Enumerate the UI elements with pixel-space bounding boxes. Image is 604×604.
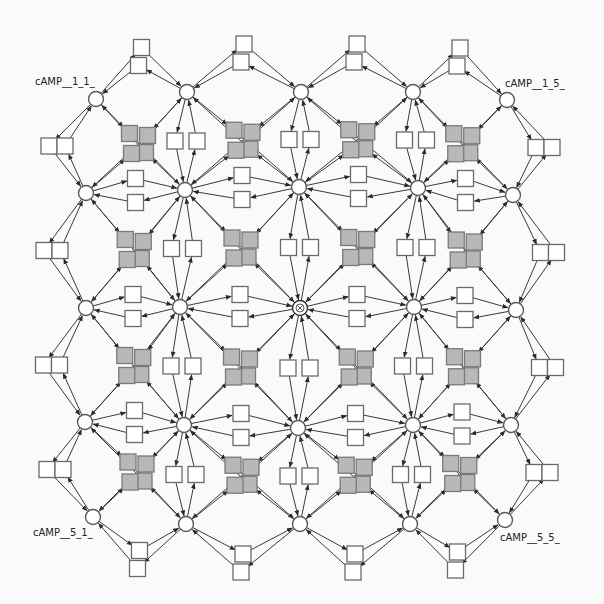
reaction-node-gray[interactable] (224, 230, 240, 246)
reaction-node[interactable] (448, 562, 464, 578)
reaction-node-gray[interactable] (464, 128, 480, 144)
reaction-node[interactable] (232, 311, 248, 327)
reaction-node-gray[interactable] (119, 252, 135, 268)
species-node-n_4_3[interactable] (291, 421, 306, 436)
reaction-node-gray[interactable] (135, 350, 151, 366)
reaction-node-gray[interactable] (243, 459, 259, 475)
reaction-node[interactable] (52, 357, 68, 373)
species-node-n_5_4[interactable] (403, 517, 418, 532)
reaction-node[interactable] (351, 167, 367, 183)
reaction-node[interactable] (125, 287, 141, 303)
species-node-n_3_4[interactable] (407, 300, 422, 315)
reaction-node[interactable] (166, 467, 182, 483)
reaction-node[interactable] (55, 462, 71, 478)
reaction-node[interactable] (233, 564, 249, 580)
reaction-node[interactable] (349, 311, 365, 327)
species-node-n_2_4[interactable] (411, 181, 426, 196)
reaction-node[interactable] (280, 360, 296, 376)
species-node-n_5_3[interactable] (293, 517, 308, 532)
reaction-node[interactable] (526, 465, 542, 481)
species-node-n_2_3[interactable] (292, 180, 307, 195)
reaction-node-gray[interactable] (120, 454, 136, 470)
reaction-node-gray[interactable] (341, 369, 357, 385)
reaction-node-gray[interactable] (465, 351, 481, 367)
reaction-node-gray[interactable] (135, 234, 151, 250)
reaction-node-gray[interactable] (357, 351, 373, 367)
species-node-n_4_1[interactable] (78, 415, 93, 430)
reaction-network-canvas[interactable]: cAMP__1_1_cAMP__1_5_cAMP__5_1_cAMP__5_5_ (0, 0, 604, 604)
species-node-n_4_4[interactable] (406, 418, 421, 433)
reaction-node-gray[interactable] (448, 146, 464, 162)
reaction-node-gray[interactable] (122, 474, 138, 490)
reaction-node-gray[interactable] (343, 250, 359, 266)
species-node-n_5_1[interactable] (86, 510, 101, 525)
reaction-node[interactable] (393, 467, 409, 483)
reaction-node-gray[interactable] (124, 146, 140, 162)
reaction-node[interactable] (236, 36, 252, 52)
reaction-node-gray[interactable] (244, 124, 260, 140)
reaction-node[interactable] (548, 360, 564, 376)
reaction-node[interactable] (281, 132, 297, 148)
species-node-n_4_5[interactable] (504, 418, 519, 433)
reaction-node[interactable] (302, 468, 318, 484)
reaction-node[interactable] (233, 54, 249, 70)
reaction-node[interactable] (127, 427, 143, 443)
reaction-node[interactable] (458, 171, 474, 187)
reaction-node[interactable] (454, 404, 470, 420)
reaction-node[interactable] (528, 140, 544, 156)
reaction-node[interactable] (419, 240, 435, 256)
reaction-node[interactable] (167, 133, 183, 149)
reaction-node[interactable] (235, 546, 251, 562)
reaction-node-gray[interactable] (449, 369, 465, 385)
reaction-node[interactable] (234, 192, 250, 208)
species-node-n_1_3[interactable] (294, 85, 309, 100)
reaction-node[interactable] (415, 467, 431, 483)
reaction-node-gray[interactable] (242, 232, 258, 248)
reaction-node-gray[interactable] (446, 126, 462, 142)
species-node-n_1_1[interactable] (89, 92, 104, 107)
species-node-n_2_2[interactable] (178, 183, 193, 198)
reaction-node[interactable] (457, 288, 473, 304)
reaction-node[interactable] (132, 543, 148, 559)
reaction-node-gray[interactable] (447, 349, 463, 365)
reaction-node[interactable] (131, 58, 147, 74)
reaction-node[interactable] (233, 430, 249, 446)
reaction-node-gray[interactable] (341, 122, 357, 138)
species-node-n_1_2[interactable] (180, 85, 195, 100)
reaction-node-gray[interactable] (450, 252, 466, 268)
reaction-node[interactable] (39, 462, 55, 478)
reaction-node[interactable] (533, 245, 549, 261)
reaction-node-gray[interactable] (340, 477, 356, 493)
reaction-node[interactable] (134, 40, 150, 56)
species-node-n_2_1[interactable] (79, 186, 94, 201)
reaction-node-gray[interactable] (343, 142, 359, 158)
species-node-n_3_2[interactable] (173, 300, 188, 315)
species-node-n_1_5[interactable] (500, 93, 515, 108)
reaction-node[interactable] (532, 360, 548, 376)
species-node-n_5_2[interactable] (179, 517, 194, 532)
species-node-n_2_5[interactable] (506, 188, 521, 203)
reaction-node[interactable] (452, 40, 468, 56)
reaction-node[interactable] (234, 168, 250, 184)
reaction-node[interactable] (397, 132, 413, 148)
reaction-node[interactable] (128, 171, 144, 187)
reaction-node-gray[interactable] (227, 477, 243, 493)
reaction-node-gray[interactable] (117, 232, 133, 248)
reaction-node[interactable] (130, 561, 146, 577)
reaction-node-gray[interactable] (448, 232, 464, 248)
reaction-node-gray[interactable] (225, 457, 241, 473)
reaction-node[interactable] (127, 403, 143, 419)
reaction-node-gray[interactable] (140, 128, 156, 144)
reaction-node[interactable] (351, 191, 367, 207)
reaction-node-gray[interactable] (461, 458, 477, 474)
reaction-node[interactable] (52, 243, 68, 259)
reaction-node-gray[interactable] (224, 349, 240, 365)
reaction-node-gray[interactable] (359, 124, 375, 140)
reaction-node[interactable] (281, 240, 297, 256)
reaction-node-gray[interactable] (122, 126, 138, 142)
reaction-node-gray[interactable] (226, 369, 242, 385)
reaction-node[interactable] (186, 241, 202, 257)
reaction-node-gray[interactable] (226, 250, 242, 266)
reaction-node-gray[interactable] (359, 232, 375, 248)
reaction-node-gray[interactable] (228, 142, 244, 158)
